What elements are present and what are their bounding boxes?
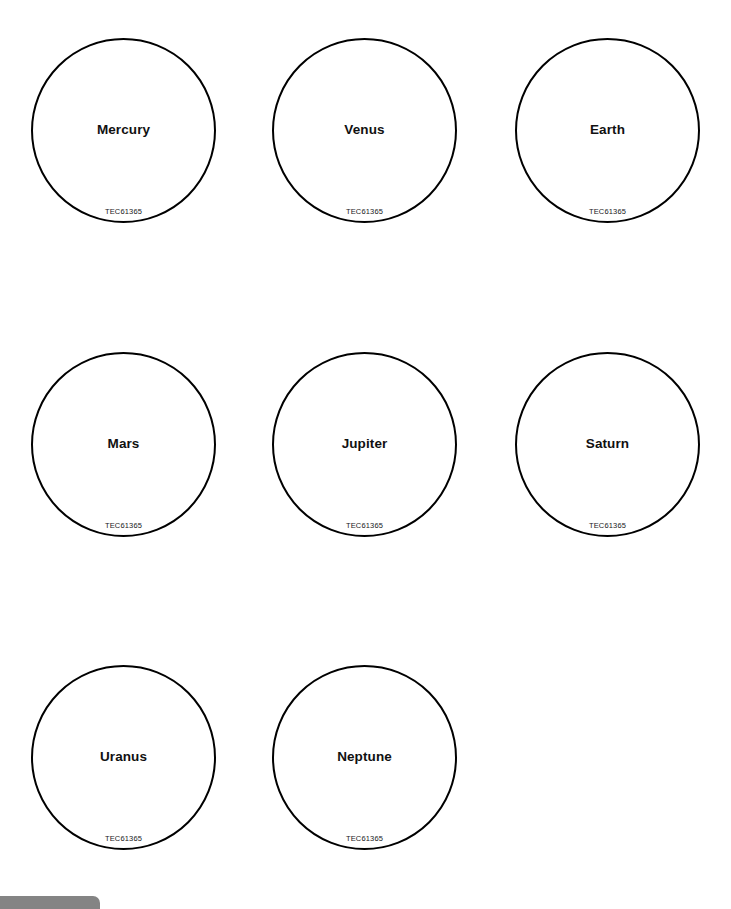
planet-code-label: TEC61365 <box>31 208 216 216</box>
planet-item-venus[interactable]: Venus TEC61365 <box>272 38 457 223</box>
planet-item-uranus[interactable]: Uranus TEC61365 <box>31 665 216 850</box>
planet-item-jupiter[interactable]: Jupiter TEC61365 <box>272 352 457 537</box>
planet-item-saturn[interactable]: Saturn TEC61365 <box>515 352 700 537</box>
planet-name-label: Venus <box>272 123 457 137</box>
planet-name-label: Mars <box>31 437 216 451</box>
planet-code-label: TEC61365 <box>31 522 216 530</box>
worksheet-canvas: Mercury TEC61365 Venus TEC61365 Earth TE… <box>0 0 731 909</box>
planet-name-label: Saturn <box>515 437 700 451</box>
planet-code-label: TEC61365 <box>272 522 457 530</box>
planet-name-label: Mercury <box>31 123 216 137</box>
bottom-left-tab[interactable] <box>0 896 100 909</box>
planet-code-label: TEC61365 <box>515 522 700 530</box>
planet-name-label: Neptune <box>272 750 457 764</box>
planet-code-label: TEC61365 <box>31 835 216 843</box>
planet-name-label: Jupiter <box>272 437 457 451</box>
planet-name-label: Earth <box>515 123 700 137</box>
planet-item-neptune[interactable]: Neptune TEC61365 <box>272 665 457 850</box>
planet-code-label: TEC61365 <box>272 835 457 843</box>
planet-item-mars[interactable]: Mars TEC61365 <box>31 352 216 537</box>
planet-name-label: Uranus <box>31 750 216 764</box>
planet-code-label: TEC61365 <box>515 208 700 216</box>
planet-code-label: TEC61365 <box>272 208 457 216</box>
planet-item-earth[interactable]: Earth TEC61365 <box>515 38 700 223</box>
planet-item-mercury[interactable]: Mercury TEC61365 <box>31 38 216 223</box>
